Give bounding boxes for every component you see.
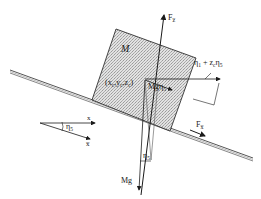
axis-x-label: x bbox=[87, 114, 91, 122]
free-body-diagram: M (xc,yc,zc) Fz̅ η1 + zcη5 Mgη5 Fx̅ η5 M… bbox=[0, 0, 261, 199]
mass-label: M bbox=[120, 43, 130, 54]
displacement-label: η1 + zcη5 bbox=[194, 58, 223, 68]
force-z-label: Fz̅ bbox=[168, 13, 176, 23]
force-x-arrow bbox=[190, 130, 205, 136]
force-x-label: Fx̅ bbox=[196, 120, 204, 130]
gravity-label: Mg bbox=[121, 176, 132, 185]
displaced-outline bbox=[193, 83, 219, 105]
axis-xbar-label: x̅ bbox=[86, 140, 90, 148]
angle-axes-label: η5 bbox=[66, 122, 73, 132]
angle-block-label: η5 bbox=[143, 151, 150, 161]
